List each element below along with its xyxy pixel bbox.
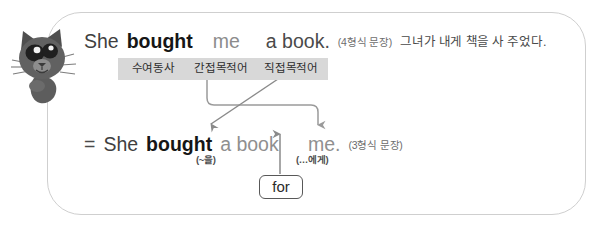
tag-dative-verb: 수여동사 (118, 58, 188, 80)
cat-mascot-icon (4, 16, 82, 104)
note-dative-particle: (…에게) (296, 152, 328, 166)
sentence-line-three-pattern: =Sheboughta book (84, 131, 279, 157)
line1-indirect-object: me (213, 30, 240, 52)
preposition-for-box: for (259, 175, 303, 199)
sentence-line-four-pattern: Sheboughtmea book.(4형식 문장)그녀가 내게 책을 사 주었… (84, 28, 546, 55)
line2-direct-object: a book (220, 133, 279, 155)
line1-pattern-note: (4형식 문장) (338, 36, 392, 48)
tag-indirect-object: 간접목적어 (184, 58, 258, 80)
line2-equals: = (84, 133, 95, 155)
line1-direct-object: a book. (266, 30, 330, 52)
tag-direct-object: 직접목적어 (254, 58, 328, 80)
line1-translation: 그녀가 내게 책을 사 주었다. (400, 35, 546, 49)
line2-pattern-note: (3형식 문장) (349, 139, 403, 151)
line1-verb: bought (127, 30, 193, 52)
note-object-particle: (~을) (196, 152, 216, 166)
line2-subject: She (103, 133, 138, 155)
line1-subject: She (84, 30, 119, 52)
